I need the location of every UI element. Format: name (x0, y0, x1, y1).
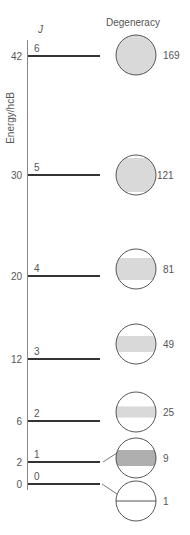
degeneracy-value: 121 (157, 170, 174, 181)
degeneracy-value: 169 (163, 50, 180, 61)
energy-value: 20 (11, 271, 23, 282)
energy-value: 6 (16, 416, 22, 427)
degeneracy-circle (116, 392, 156, 432)
energy-level-J3: 12349 (11, 324, 175, 365)
energy-level-J2: 6225 (16, 392, 174, 432)
j-value: 2 (34, 408, 40, 419)
j-value: 1 (34, 449, 40, 460)
j-value: 3 (34, 346, 40, 357)
j-value: 4 (34, 263, 40, 274)
j-value: 6 (34, 43, 40, 54)
energy-level-J5: 305121 (11, 155, 174, 195)
y-axis-label: Energy/hcB (5, 92, 16, 144)
energy-value: 30 (11, 170, 23, 181)
j-value: 5 (34, 162, 40, 173)
energy-level-J4: 20481 (11, 249, 175, 289)
degeneracy-circle (116, 155, 156, 195)
degeneracy-circle (116, 324, 156, 364)
energy-value: 12 (11, 354, 23, 365)
degeneracy-circle (116, 438, 156, 478)
energy-level-J0: 001 (16, 471, 169, 521)
energy-value: 42 (11, 51, 23, 62)
energy-level-J6: 426169 (11, 35, 180, 75)
degeneracy-circle (116, 481, 156, 521)
j-value: 0 (34, 471, 40, 482)
energy-value: 0 (16, 479, 22, 490)
degeneracy-value: 1 (163, 496, 169, 507)
connector-line (102, 484, 117, 494)
degeneracy-circle (116, 249, 156, 289)
degeneracy-value: 49 (163, 339, 175, 350)
degeneracy-value: 81 (163, 264, 175, 275)
j-column-label: J (37, 24, 44, 35)
degeneracy-column-label: Degeneracy (106, 17, 160, 28)
degeneracy-circle (116, 35, 156, 75)
energy-value: 2 (16, 457, 22, 468)
connector-line (103, 453, 117, 462)
degeneracy-value: 9 (163, 453, 169, 464)
energy-level-diagram: J Degeneracy Energy/hcB 0012196225123492… (0, 0, 190, 535)
degeneracy-value: 25 (163, 407, 175, 418)
